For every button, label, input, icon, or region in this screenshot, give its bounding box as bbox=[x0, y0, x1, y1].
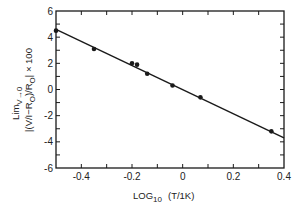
y-tick-label: -2 bbox=[44, 110, 53, 121]
plot-border bbox=[56, 11, 284, 168]
y-tick-label: -4 bbox=[44, 136, 53, 147]
y-axis-ticks bbox=[56, 24, 284, 155]
chart: -0.4-0.200.20.4 6420-2-4-6 LOG10(T/1K) L… bbox=[0, 0, 296, 209]
y-axis-title: LimV→0 |(V/I−RO)/RO| × 100 bbox=[10, 48, 37, 132]
x-axis-ticks bbox=[81, 11, 258, 168]
x-axis-title: LOG10(T/1K) bbox=[133, 190, 194, 204]
x-tick-label: -0.4 bbox=[73, 171, 91, 182]
y-tick-label: 4 bbox=[47, 32, 53, 43]
y-tick-label: 6 bbox=[47, 6, 53, 17]
data-point bbox=[92, 47, 97, 52]
data-point bbox=[170, 83, 175, 88]
data-point bbox=[135, 62, 140, 67]
x-tick-label: 0.2 bbox=[226, 171, 240, 182]
x-axis-tick-labels: -0.4-0.200.20.4 bbox=[73, 171, 292, 182]
data-point bbox=[145, 72, 150, 77]
data-point bbox=[54, 28, 59, 33]
y-tick-label: 2 bbox=[47, 58, 53, 69]
data-point bbox=[198, 95, 203, 100]
svg-text:|(V/I−RO)/RO| × 100: |(V/I−RO)/RO| × 100 bbox=[23, 48, 37, 132]
y-tick-label: 0 bbox=[47, 84, 53, 95]
y-axis-tick-labels: 6420-2-4-6 bbox=[44, 6, 53, 174]
svg-text:LimV→0: LimV→0 bbox=[10, 86, 24, 120]
x-tick-label: 0 bbox=[180, 171, 186, 182]
linear-fit-line bbox=[56, 29, 284, 138]
data-point bbox=[130, 61, 135, 66]
fit-line bbox=[56, 29, 284, 138]
data-point bbox=[269, 129, 274, 134]
y-tick-label: -6 bbox=[44, 163, 53, 174]
plot-frame bbox=[56, 11, 284, 168]
x-tick-label: 0.4 bbox=[277, 171, 291, 182]
x-tick-label: -0.2 bbox=[123, 171, 141, 182]
